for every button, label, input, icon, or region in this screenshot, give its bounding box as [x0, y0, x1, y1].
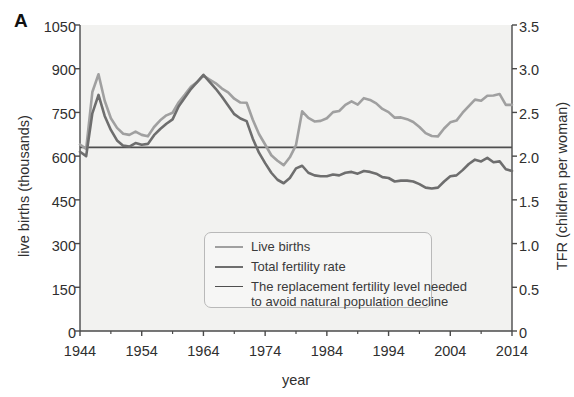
legend-label-line2: to avoid natural population decline	[251, 294, 467, 309]
legend-label-block: The replacement fertility level needed t…	[251, 279, 467, 309]
legend-swatch-total-fertility-rate	[215, 266, 243, 268]
plot-canvas	[0, 0, 574, 397]
legend-item-replacement-level: The replacement fertility level needed t…	[215, 279, 467, 309]
legend-swatch-replacement-level	[215, 286, 243, 287]
legend-item-live-births: Live births	[215, 239, 310, 254]
legend-label: Total fertility rate	[251, 259, 346, 274]
legend-item-total-fertility-rate: Total fertility rate	[215, 259, 346, 274]
legend-label: Live births	[251, 239, 310, 254]
figure-panel-a: A 1050 900 750 600 450 300 150 0 3.5 3.0…	[0, 0, 574, 397]
legend-swatch-live-births	[215, 246, 243, 248]
legend-label: The replacement fertility level needed	[251, 279, 467, 294]
chart-legend: Live births Total fertility rate The rep…	[204, 232, 432, 308]
